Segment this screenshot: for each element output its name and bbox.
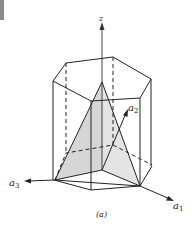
- z-label: z: [98, 14, 104, 23]
- a3-arrow-icon: [24, 179, 31, 184]
- figure-caption: (a): [96, 210, 107, 219]
- a1-axis: [140, 186, 170, 199]
- a3-axis: [28, 180, 55, 181]
- a2-label: a2: [128, 102, 138, 115]
- z-arrow-icon: [100, 22, 105, 30]
- hexagonal-prism-diagram: z a2 a3 a1 (a): [0, 0, 194, 231]
- a1-label: a1: [173, 200, 183, 213]
- a3-label: a3: [9, 177, 19, 190]
